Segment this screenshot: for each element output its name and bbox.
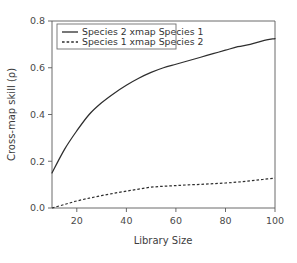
y-tick-label-1: 0.2 [30, 156, 45, 167]
x-axis-title: Library Size [134, 235, 193, 246]
legend-label-1: Species 1 xmap Species 2 [82, 36, 203, 47]
chart-figure: 0.0 0.2 0.4 0.6 0.8 20 40 60 80 100 Libr… [0, 0, 297, 263]
y-tick-label-4: 0.8 [30, 15, 45, 26]
x-tick-label-0: 20 [71, 215, 83, 226]
y-tick-label-3: 0.6 [30, 62, 45, 73]
chart-legend: Species 2 xmap Species 1 Species 1 xmap … [57, 24, 203, 49]
x-tick-label-4: 100 [266, 215, 284, 226]
y-tick-label-0: 0.0 [30, 202, 45, 213]
y-tick-label-2: 0.4 [30, 109, 45, 120]
x-tick-label-2: 60 [170, 215, 182, 226]
y-axis-ticks: 0.0 0.2 0.4 0.6 0.8 [30, 15, 52, 213]
x-tick-label-1: 40 [120, 215, 132, 226]
x-axis-ticks: 20 40 60 80 100 [71, 208, 284, 226]
cross-map-skill-line-chart: 0.0 0.2 0.4 0.6 0.8 20 40 60 80 100 Libr… [0, 0, 297, 263]
x-tick-label-3: 80 [219, 215, 231, 226]
y-axis-title: Cross-map skill (ρ) [6, 68, 17, 161]
